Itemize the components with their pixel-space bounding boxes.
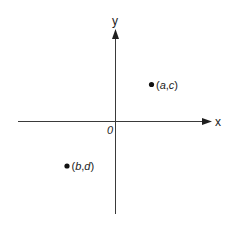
point-a-c-dot xyxy=(149,82,154,87)
x-axis-label: x xyxy=(215,115,221,129)
y-axis-label: y xyxy=(112,14,118,28)
point-a-c-label: (a,c) xyxy=(156,79,178,91)
y-axis-arrow-icon xyxy=(112,29,119,39)
point-b-d: (b,d) xyxy=(64,160,94,172)
point-b-d-label: (b,d) xyxy=(72,160,95,172)
coordinate-plane: x y 0 (a,c) (b,d) xyxy=(0,0,236,228)
x-axis-arrow-icon xyxy=(202,118,212,125)
point-a-c: (a,c) xyxy=(149,79,178,91)
origin-label: 0 xyxy=(107,124,114,136)
point-b-d-dot xyxy=(64,163,69,168)
